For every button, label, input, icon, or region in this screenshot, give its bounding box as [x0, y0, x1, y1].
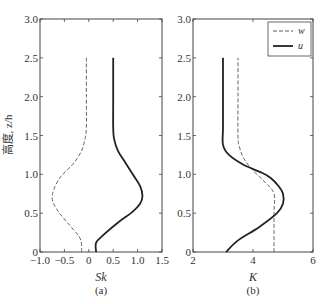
x-tick-label: 6 — [310, 254, 316, 266]
panel-label-a: (a) — [95, 284, 108, 297]
panel-b-kurtosis-plot: 246 00.51.01.52.02.53.0 K (b) w u — [177, 13, 316, 297]
y-tick-label: 0 — [33, 246, 39, 258]
x-tick-label: 4 — [250, 254, 256, 266]
x-tick-label: −0.5 — [54, 254, 74, 266]
y-tick-label: 2.5 — [177, 52, 191, 64]
y-tick-label: 1.5 — [24, 130, 38, 142]
y-tick-label: 3.0 — [24, 13, 38, 25]
x-axis-title-a: Sk — [95, 270, 107, 284]
y-tick-label: 0.5 — [24, 207, 38, 219]
plot-frame-a — [40, 19, 162, 252]
y-tick-label: 0 — [186, 246, 192, 258]
x-tick-label: 1.5 — [155, 254, 169, 266]
legend: w u — [268, 22, 311, 56]
series-b — [223, 58, 284, 252]
x-axis-title-b: K — [248, 270, 258, 284]
series-a — [52, 58, 142, 252]
y-axis-title: 高度, z/h — [1, 114, 14, 155]
legend-w-label: w — [298, 25, 305, 36]
y-tick-label: 2.5 — [24, 52, 38, 64]
x-tick-label: 2 — [190, 254, 196, 266]
series-line-u — [96, 58, 143, 252]
y-tick-label: 3.0 — [177, 13, 191, 25]
panel-label-b: (b) — [247, 284, 260, 297]
series-line-u — [223, 58, 284, 252]
panel-a-skewness-plot: −1.0−0.500.51.01.5 00.51.01.52.02.53.0 S… — [1, 13, 169, 297]
y-tick-label: 0.5 — [177, 207, 191, 219]
y-tick-label: 2.0 — [24, 91, 38, 103]
y-tick-label: 2.0 — [177, 91, 191, 103]
series-line-w — [52, 58, 86, 252]
figure: −1.0−0.500.51.01.5 00.51.01.52.02.53.0 S… — [0, 0, 324, 304]
series-line-w — [238, 58, 275, 252]
x-tick-label: 1.0 — [131, 254, 145, 266]
x-tick-label: 0 — [86, 254, 92, 266]
y-tick-label: 1.0 — [24, 168, 38, 180]
legend-u-label: u — [298, 40, 303, 51]
y-ticks-a: 00.51.01.52.02.53.0 — [24, 13, 162, 258]
y-tick-label: 1.5 — [177, 130, 191, 142]
x-tick-label: 0.5 — [106, 254, 120, 266]
y-tick-label: 1.0 — [177, 168, 191, 180]
x-ticks-a: −1.0−0.500.51.01.5 — [30, 19, 169, 266]
